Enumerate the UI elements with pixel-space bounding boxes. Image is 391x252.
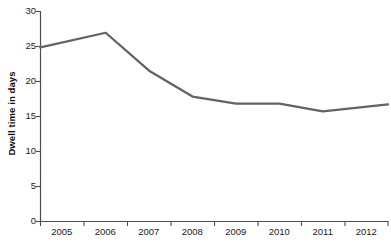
chart-figure: Dwell time in days 30 25 20 15 10 5 0 bbox=[0, 0, 391, 252]
x-axis-tick-labels: 2005 2006 2007 2008 2009 2010 2011 2012 bbox=[40, 226, 388, 244]
x-tick-label: 2006 bbox=[84, 226, 128, 244]
x-tick-label: 2008 bbox=[171, 226, 215, 244]
data-series-line bbox=[41, 33, 389, 112]
x-tick-label: 2009 bbox=[214, 226, 258, 244]
x-tick-label: 2010 bbox=[258, 226, 302, 244]
y-axis-ticks bbox=[36, 12, 40, 222]
x-tick-label: 2011 bbox=[301, 226, 345, 244]
plot-area bbox=[0, 0, 391, 252]
x-tick-label: 2007 bbox=[127, 226, 171, 244]
x-tick-label: 2012 bbox=[345, 226, 389, 244]
x-tick-label: 2005 bbox=[40, 226, 84, 244]
